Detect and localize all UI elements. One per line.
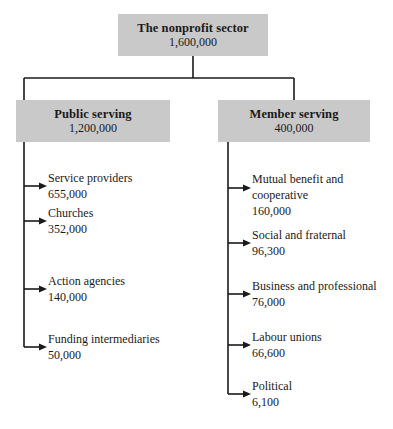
leaf-churches: Churches 352,000 bbox=[48, 206, 93, 238]
node-member-serving-value: 400,000 bbox=[275, 121, 314, 135]
leaf-value: 140,000 bbox=[48, 290, 125, 306]
left-arrowhead-3 bbox=[39, 285, 47, 292]
leaf-mutual-benefit-and-cooperative: Mutual benefit and cooperative 160,000 bbox=[252, 172, 343, 219]
leaf-social-and-fraternal: Social and fraternal 96,300 bbox=[252, 228, 346, 260]
leaf-label: Action agencies bbox=[48, 274, 125, 290]
left-arrowhead-1 bbox=[39, 182, 47, 189]
leaf-value: 66,600 bbox=[252, 346, 322, 362]
node-root-title: The nonprofit sector bbox=[137, 21, 249, 36]
node-public-serving: Public serving 1,200,000 bbox=[16, 100, 170, 142]
node-root-value: 1,600,000 bbox=[169, 35, 217, 49]
right-arrowhead-2 bbox=[243, 239, 251, 246]
leaf-value: 96,300 bbox=[252, 244, 346, 260]
leaf-labour-unions: Labour unions 66,600 bbox=[252, 330, 322, 362]
leaf-value: 50,000 bbox=[48, 348, 160, 364]
leaf-label: Mutual benefit and bbox=[252, 172, 343, 188]
right-arrowhead-4 bbox=[243, 341, 251, 348]
node-root: The nonprofit sector 1,600,000 bbox=[118, 14, 268, 56]
left-arrowhead-4 bbox=[39, 343, 47, 350]
right-arrowhead-3 bbox=[243, 290, 251, 297]
node-member-serving: Member serving 400,000 bbox=[218, 100, 370, 142]
leaf-label: Labour unions bbox=[252, 330, 322, 346]
leaf-label: Social and fraternal bbox=[252, 228, 346, 244]
leaf-value: 160,000 bbox=[252, 204, 343, 220]
org-chart-diagram: The nonprofit sector 1,600,000 Public se… bbox=[0, 0, 393, 429]
node-member-serving-title: Member serving bbox=[250, 107, 339, 122]
leaf-service-providers: Service providers 655,000 bbox=[48, 171, 132, 203]
leaf-action-agencies: Action agencies 140,000 bbox=[48, 274, 125, 306]
leaf-funding-intermediaries: Funding intermediaries 50,000 bbox=[48, 332, 160, 364]
right-arrowhead-5 bbox=[243, 390, 251, 397]
right-arrowhead-1 bbox=[243, 184, 251, 191]
leaf-political: Political 6,100 bbox=[252, 379, 292, 411]
leaf-business-and-professional: Business and professional 76,000 bbox=[252, 279, 377, 311]
leaf-label: Service providers bbox=[48, 171, 132, 187]
leaf-label: Churches bbox=[48, 206, 93, 222]
leaf-label: Political bbox=[252, 379, 292, 395]
left-arrowhead-2 bbox=[39, 217, 47, 224]
leaf-value: 76,000 bbox=[252, 295, 377, 311]
leaf-label: Business and professional bbox=[252, 279, 377, 295]
leaf-label-line2: cooperative bbox=[252, 188, 343, 204]
leaf-label: Funding intermediaries bbox=[48, 332, 160, 348]
leaf-value: 352,000 bbox=[48, 222, 93, 238]
leaf-value: 6,100 bbox=[252, 395, 292, 411]
node-public-serving-value: 1,200,000 bbox=[69, 121, 117, 135]
node-public-serving-title: Public serving bbox=[54, 107, 131, 122]
leaf-value: 655,000 bbox=[48, 187, 132, 203]
